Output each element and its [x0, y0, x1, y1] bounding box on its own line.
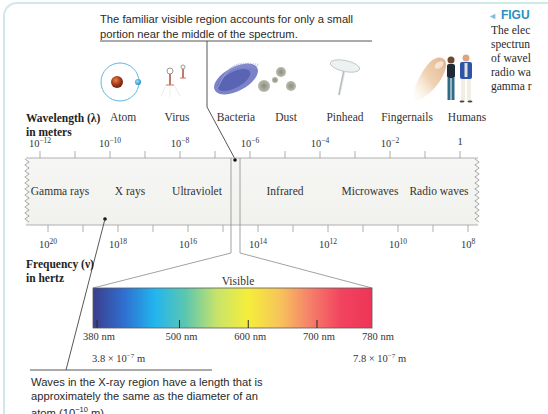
bacteria-icon [209, 57, 263, 101]
pinhead-icon [329, 58, 361, 95]
visible-nm-label: 600 nm [234, 331, 266, 342]
frequency-tick-label: 1010 [389, 237, 407, 250]
wavelength-ticks [40, 151, 460, 158]
bottom-note-text: Waves in the X-ray region have a length … [31, 376, 263, 414]
wavelength-axis-title: Wavelength (λ) in meters [26, 111, 100, 139]
atom-icon [101, 63, 141, 101]
band-label-gamma: Gamma rays [31, 185, 89, 197]
wavelength-tick-label: 10−8 [171, 136, 189, 149]
frequency-title-line1: Frequency (ν) [26, 257, 94, 271]
frequency-tick-label: 1014 [249, 237, 267, 250]
object-label-fingernails: Fingernails [381, 111, 433, 123]
visible-pointer-dot [233, 158, 237, 162]
bottom-annotation: Waves in the X-ray region have a length … [31, 375, 271, 414]
object-label-virus: Virus [165, 111, 190, 123]
dust-icon [258, 67, 296, 92]
bottom-note-tail: m). [88, 407, 107, 414]
visible-label: Visible [222, 275, 255, 287]
figure-caption-title: FIGU [501, 8, 530, 22]
band-label-ultraviolet: Ultraviolet [172, 185, 222, 197]
visible-nm-label: 500 nm [166, 331, 198, 342]
wavelength-title-line1: Wavelength (λ) [26, 111, 100, 125]
wavelength-tick-label: 10−6 [241, 136, 259, 149]
object-label-bacteria: Bacteria [217, 111, 255, 123]
humans-icon [447, 55, 473, 103]
frequency-tick-label: 1018 [109, 237, 127, 250]
figure-caption-heading: ◄FIGU [488, 8, 530, 22]
band-label-microwaves: Microwaves [342, 185, 399, 197]
wavelength-tick-label: 10−12 [29, 136, 51, 149]
object-label-dust: Dust [275, 111, 297, 123]
band-label-xrays: X rays [115, 185, 145, 197]
frequency-tick-label: 108 [461, 237, 475, 250]
figure-caption-body: The elec spectrun of wavel radio wa gamm… [491, 23, 532, 93]
spectrum-diagram [0, 0, 548, 414]
visible-gradient-bar [93, 288, 372, 328]
visible-nm-label: 780 nm [362, 331, 394, 342]
frequency-tick-label: 1020 [39, 237, 57, 250]
object-label-humans: Humans [448, 111, 486, 123]
left-triangle-icon: ◄ [488, 11, 497, 21]
visible-min-unit: m [134, 353, 145, 364]
frequency-axis-title: Frequency (ν) in hertz [26, 257, 94, 285]
frequency-tick-label: 1016 [179, 237, 197, 250]
visible-nm-label: 380 nm [83, 331, 115, 342]
visible-nm-label: 700 nm [303, 331, 335, 342]
frequency-tick-label: 1012 [319, 237, 337, 250]
caption-line: of wavel [491, 51, 532, 65]
wavelength-tick-label: 1 [457, 136, 462, 147]
visible-max-meters: 7.8 × 10−7 m [353, 352, 406, 364]
frequency-ticks [48, 225, 468, 232]
bottom-note-exponent: −10 [75, 405, 88, 414]
virus-icon [161, 65, 186, 97]
object-label-atom: Atom [110, 111, 136, 123]
visible-max-unit: m [395, 353, 406, 364]
caption-line: radio wa [491, 65, 532, 79]
object-label-pinhead: Pinhead [326, 111, 363, 123]
wavelength-tick-label: 10−4 [311, 136, 329, 149]
visible-max-mantissa: 7.8 × 10 [353, 353, 388, 364]
top-annotation: The familiar visible region accounts for… [100, 12, 380, 42]
fingernail-icon [413, 57, 446, 102]
caption-line: spectrun [491, 37, 532, 51]
band-label-infrared: Infrared [266, 185, 303, 197]
frequency-title-line2: in hertz [26, 271, 94, 285]
caption-line: The elec [491, 23, 532, 37]
wavelength-tick-label: 10−2 [381, 136, 399, 149]
band-label-radio: Radio waves [409, 185, 468, 197]
visible-min-meters: 3.8 × 10−7 m [92, 352, 145, 364]
visible-min-mantissa: 3.8 × 10 [92, 353, 127, 364]
caption-line: gamma r [491, 79, 532, 93]
wavelength-tick-label: 10−10 [99, 136, 121, 149]
top-note-pointer [207, 41, 235, 159]
